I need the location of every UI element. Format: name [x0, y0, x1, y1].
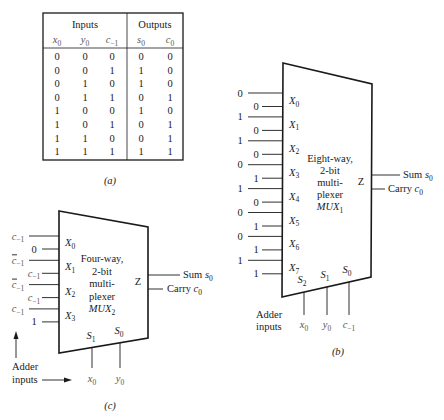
table-cell: 0 — [82, 119, 87, 130]
table-cell: 0 — [54, 51, 59, 62]
select-var-label: c−1 — [343, 319, 356, 333]
title-line: 2-bit — [92, 266, 112, 277]
table-cell: 1 — [138, 78, 143, 89]
table-cell: 0 — [109, 51, 114, 62]
table-cell: 1 — [109, 92, 114, 103]
column-header: x0 — [52, 34, 62, 48]
title-line: Eight-way, — [307, 153, 353, 164]
input-bit: 1 — [253, 173, 258, 184]
select-var-label: y0 — [322, 319, 332, 333]
header-inputs: Inputs — [72, 19, 98, 30]
table-cell: 1 — [82, 146, 87, 157]
input-bit: c−1 — [12, 303, 25, 317]
title-line: multi- — [89, 278, 115, 289]
table-cell: 1 — [138, 65, 143, 76]
table-cell: 1 — [167, 92, 172, 103]
arrow-right-icon — [42, 378, 72, 383]
table-cell: 1 — [54, 146, 59, 157]
table-cell: 0 — [54, 92, 59, 103]
mux1-outputs: Sum s0Carry c0 — [388, 169, 433, 197]
table-cell: 0 — [54, 78, 59, 89]
table-cell: 1 — [138, 105, 143, 116]
output-sum: Sum s0 — [183, 269, 213, 283]
output-carry: Carry c0 — [167, 283, 202, 297]
input-bit: 1 — [237, 111, 242, 122]
table-cell: 1 — [109, 65, 114, 76]
caption-a: (a) — [104, 175, 117, 187]
table-cell: 1 — [167, 119, 172, 130]
table-cell: 1 — [138, 146, 143, 157]
mux1-adder-label-line2: inputs — [256, 321, 282, 332]
input-bit: c−1 — [12, 255, 25, 269]
select-var-label: x0 — [87, 373, 97, 387]
table-cell: 1 — [109, 119, 114, 130]
title-line: plexer — [89, 291, 116, 302]
mux2-select-S1: S1x0 — [87, 330, 97, 387]
title-line: plexer — [317, 189, 344, 200]
table-rows: 0000000110010100110110010101011100111111 — [54, 51, 172, 157]
input-bit: c−1 — [12, 231, 25, 245]
column-headers: x0y0c−1s0c0 — [52, 34, 175, 48]
caption-c: (c) — [104, 400, 116, 412]
column-header: c0 — [166, 34, 175, 48]
table-cell: 1 — [54, 133, 59, 144]
input-bit: 1 — [237, 135, 242, 146]
input-bit: 0 — [253, 197, 258, 208]
table-cell: 1 — [82, 92, 87, 103]
table-cell: 0 — [138, 133, 143, 144]
input-bit: 0 — [253, 101, 258, 112]
table-row: 01101 — [54, 92, 172, 103]
column-header: y0 — [80, 34, 90, 48]
input-bit: 1 — [237, 255, 242, 266]
table-cell: 0 — [138, 51, 143, 62]
input-bit: c−1 — [28, 292, 41, 306]
input-bit: 1 — [237, 183, 242, 194]
table-cell: 0 — [138, 119, 143, 130]
input-bit: c−1 — [12, 279, 25, 293]
table-cell: 1 — [82, 78, 87, 89]
input-bit: 0 — [237, 88, 242, 99]
mux2-outputs: Sum s0Carry c0 — [167, 269, 213, 297]
input-bit: 1 — [253, 221, 258, 232]
mux2-adder-label-line1: Adder — [12, 361, 39, 372]
table-cell: 0 — [167, 51, 172, 62]
table-row: 00000 — [54, 51, 172, 62]
table-cell: 0 — [54, 65, 59, 76]
truth-table: Inputs Outputs x0y0c−1s0c0 0000000110010… — [43, 13, 183, 160]
select-var-label: y0 — [115, 373, 125, 387]
table-cell: 0 — [109, 78, 114, 89]
table-cell: 1 — [167, 133, 172, 144]
mux2-output-port: Z — [135, 276, 141, 287]
select-var-label: x0 — [299, 319, 309, 333]
title-line: 2-bit — [320, 165, 340, 176]
table-row: 11001 — [54, 133, 172, 144]
table-cell: 0 — [167, 105, 172, 116]
table-row: 11111 — [54, 146, 172, 157]
table-row: 01010 — [54, 78, 172, 89]
mux1-output-port: Z — [358, 176, 364, 187]
mux1-diagram: 00X010X110X201X310X401X501X611X7 Eight-w… — [237, 63, 433, 333]
table-cell: 1 — [54, 105, 59, 116]
table-row: 00110 — [54, 65, 172, 76]
table-cell: 0 — [109, 105, 114, 116]
column-header: c−1 — [106, 34, 119, 48]
figure-canvas: Inputs Outputs x0y0c−1s0c0 0000000110010… — [0, 0, 444, 420]
table-cell: 0 — [167, 65, 172, 76]
input-bit: 0 — [253, 149, 258, 160]
table-cell: 0 — [109, 133, 114, 144]
mux2-diagram: c−10X0c−1c−1X1c−1c−1X2c−11X3 Four-way,2-… — [12, 211, 213, 387]
output-carry: Carry c0 — [388, 183, 423, 197]
column-header: s0 — [137, 34, 145, 48]
arrow-up-icon — [14, 331, 19, 358]
input-bit: 0 — [237, 207, 242, 218]
input-bit: c−1 — [28, 268, 41, 282]
input-bit: 1 — [253, 244, 258, 255]
input-bit: 0 — [31, 244, 36, 255]
table-cell: 0 — [167, 78, 172, 89]
title-line: Four-way, — [81, 253, 124, 264]
input-bit: 0 — [253, 125, 258, 136]
input-bit: 1 — [253, 268, 258, 279]
table-cell: 0 — [138, 92, 143, 103]
input-bit: 0 — [237, 159, 242, 170]
table-row: 10010 — [54, 105, 172, 116]
